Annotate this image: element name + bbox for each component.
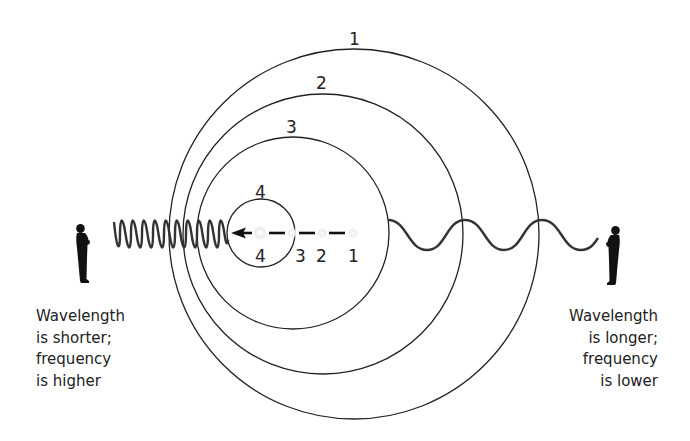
source-dot-4 bbox=[251, 224, 269, 242]
position-label-2: 2 bbox=[316, 246, 327, 266]
caption-line: is lower bbox=[569, 371, 658, 393]
wavefront-label-3: 3 bbox=[286, 117, 297, 137]
caption-line: is shorter; bbox=[36, 328, 125, 350]
caption-line: is longer; bbox=[569, 328, 658, 350]
person-silhouette-icon bbox=[606, 226, 620, 285]
caption-line: is higher bbox=[36, 371, 125, 393]
source-dot-3 bbox=[286, 227, 298, 239]
position-label-1: 1 bbox=[348, 246, 359, 266]
right-observer-caption: Wavelength is longer; frequency is lower bbox=[569, 306, 658, 392]
left-observer-caption: Wavelength is shorter; frequency is high… bbox=[36, 306, 125, 392]
compressed-wave bbox=[114, 221, 228, 248]
wavefront-label-4-top: 4 bbox=[255, 182, 266, 202]
stretched-wave bbox=[388, 220, 598, 250]
source-dot-1 bbox=[347, 227, 359, 239]
caption-line: frequency bbox=[569, 349, 658, 371]
wavefront-label-2: 2 bbox=[316, 73, 327, 93]
person-silhouette-icon bbox=[76, 224, 90, 283]
caption-line: frequency bbox=[36, 349, 125, 371]
wavefront-label-4-bottom: 4 bbox=[255, 246, 266, 266]
wavefront-label-1: 1 bbox=[349, 29, 360, 49]
source-dot-2 bbox=[316, 227, 328, 239]
caption-line: Wavelength bbox=[569, 306, 658, 328]
caption-line: Wavelength bbox=[36, 306, 125, 328]
position-label-3: 3 bbox=[295, 246, 306, 266]
